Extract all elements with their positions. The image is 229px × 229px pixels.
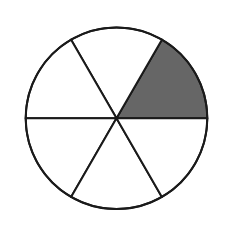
circle-svg (0, 0, 229, 229)
fraction-circle-diagram (0, 0, 229, 229)
